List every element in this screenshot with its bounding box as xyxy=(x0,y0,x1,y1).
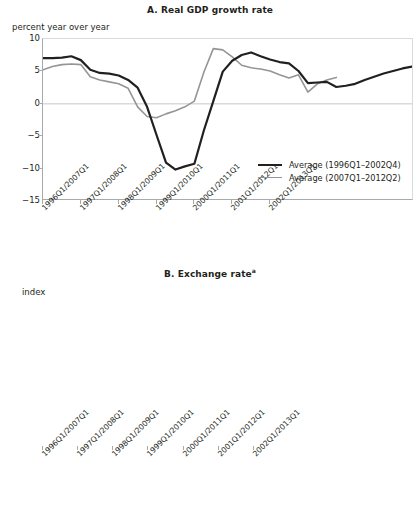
panel-a-legend-item-black: Average (1996Q1–2002Q4) xyxy=(258,158,401,171)
panel-a-legend-item-gray: Average (2007Q1–2012Q2) xyxy=(258,171,401,184)
panel-a-line-average-2007-2012 xyxy=(43,49,336,118)
panel-b-title-text: B. Exchange rate xyxy=(164,269,252,279)
panel-a-legend-label-black: Average (1996Q1–2002Q4) xyxy=(289,160,401,170)
panel-a-legend: Average (1996Q1–2002Q4) Average (2007Q1–… xyxy=(258,158,401,184)
panel-a-line-average-1996-2002 xyxy=(43,52,412,169)
panel-a-y-axis: 10 5 0 −5 −10 −15 xyxy=(0,38,40,200)
panel-a-ytick-neg10: −10 xyxy=(6,163,40,173)
panel-b-y-axis-unit: index xyxy=(22,287,45,297)
panel-a-title-text: A. Real GDP growth rate xyxy=(147,5,273,15)
panel-a-legend-label-gray: Average (2007Q1–2012Q2) xyxy=(289,173,401,183)
panel-a-ytick-0: 0 xyxy=(6,98,40,108)
panel-a-ytick-neg5: −5 xyxy=(6,130,40,140)
legend-line-swatch-gray-icon xyxy=(258,177,282,178)
panel-a-ytick-10: 10 xyxy=(6,33,40,43)
legend-line-swatch-black-icon xyxy=(258,164,282,166)
panel-b-title: B. Exchange ratea xyxy=(0,269,420,279)
panel-a-ytick-neg15: −15 xyxy=(6,195,40,205)
panel-a-ytick-5: 5 xyxy=(6,65,40,75)
figure-container: A. Real GDP growth rate percent year ove… xyxy=(0,0,420,516)
panel-b-exchange-rate: B. Exchange ratea index 250 200 150 100 … xyxy=(0,262,420,516)
panel-a-real-gdp-growth-rate: A. Real GDP growth rate percent year ove… xyxy=(0,0,420,262)
panel-a-title: A. Real GDP growth rate xyxy=(0,5,420,15)
panel-b-title-footnote-marker: a xyxy=(252,267,256,274)
panel-a-y-axis-unit: percent year over year xyxy=(12,22,110,32)
